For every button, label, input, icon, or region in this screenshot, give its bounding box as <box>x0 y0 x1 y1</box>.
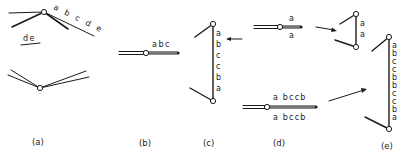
hinge-node <box>41 9 46 14</box>
hinge-node <box>353 11 358 16</box>
segment <box>335 40 356 47</box>
panel-b: abc (b) <box>119 40 178 148</box>
label: c <box>216 62 220 71</box>
hinge-node <box>143 50 148 55</box>
hinge-node <box>210 21 215 26</box>
caption-c: (c) <box>203 138 214 148</box>
segment <box>9 12 44 13</box>
segment <box>8 75 40 88</box>
label-abc: abc <box>152 40 171 49</box>
hinge-node <box>277 24 282 29</box>
label: a <box>392 113 397 122</box>
label-abccb-top: a bccb <box>273 93 307 102</box>
label-a-bottom: a <box>289 31 294 40</box>
label-abcde: a b c d e <box>52 3 105 35</box>
hinge-node <box>386 34 391 39</box>
vertical-labels-e: a b c c b b c c b a <box>392 41 397 122</box>
hinge-node <box>210 98 215 103</box>
hinge-node <box>386 126 391 131</box>
caption-d: (d) <box>273 138 285 148</box>
label-de: de <box>23 34 36 43</box>
hinge-node <box>353 44 358 49</box>
label-abccb-bottom: a bccb <box>273 113 307 122</box>
caption-a: (a) <box>32 137 44 147</box>
segment <box>12 12 44 27</box>
label: a <box>216 29 221 38</box>
hinge-node <box>37 85 42 90</box>
folding-diagram: a b c d e de (a) abc (b) a b c c b <box>0 0 404 157</box>
label: c <box>216 51 220 60</box>
caption-e: (e) <box>381 141 393 151</box>
label-a-top: a <box>289 14 294 23</box>
panel-c: a b c c b a (c) <box>190 21 242 148</box>
panel-a: a b c d e de (a) <box>8 3 105 147</box>
caption-b: (b) <box>139 138 151 148</box>
hinge-node <box>264 104 269 109</box>
arrow-to-e-large <box>329 90 364 101</box>
arrowhead-icon <box>361 88 367 93</box>
vertical-labels-c: a b c c b a <box>216 29 221 93</box>
label: b <box>216 73 221 82</box>
arrowhead-icon <box>226 37 231 41</box>
segment <box>190 88 213 101</box>
label: a <box>360 30 365 39</box>
label: a <box>360 19 365 28</box>
panel-d: a a a bccb a bccb (d) <box>243 14 367 148</box>
label: b <box>216 40 221 49</box>
segment <box>11 70 40 88</box>
arrow-to-e-small <box>316 27 334 30</box>
label: a <box>216 84 221 93</box>
segment <box>365 117 389 129</box>
arrowhead-icon <box>331 28 337 33</box>
segment <box>372 37 389 51</box>
segment <box>195 24 213 37</box>
segment-de <box>21 43 40 45</box>
panel-e: a a a b c c b b c c b a (e) <box>335 11 397 151</box>
